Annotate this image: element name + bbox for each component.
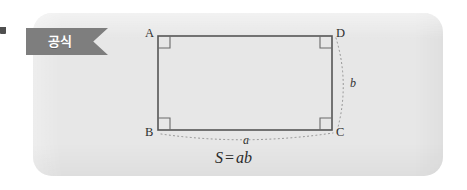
vertex-label-a: A xyxy=(145,27,154,40)
side-label-b: b xyxy=(350,77,356,89)
formula-result: S xyxy=(215,149,223,166)
side-label-a: a xyxy=(243,134,249,146)
formula-ribbon: 공식 xyxy=(26,28,108,55)
area-formula: S=ab xyxy=(0,150,467,166)
ribbon-label: 공식 xyxy=(26,28,94,55)
formula-expression: ab xyxy=(236,149,252,166)
vertex-label-d: D xyxy=(336,27,345,40)
formula-operator: = xyxy=(225,149,234,166)
ribbon-fold-tab xyxy=(0,27,6,34)
vertex-label-c: C xyxy=(336,126,344,139)
screenshot-root: 공식 A D B C a b S=ab xyxy=(0,0,467,190)
vertex-label-b: B xyxy=(145,126,153,139)
